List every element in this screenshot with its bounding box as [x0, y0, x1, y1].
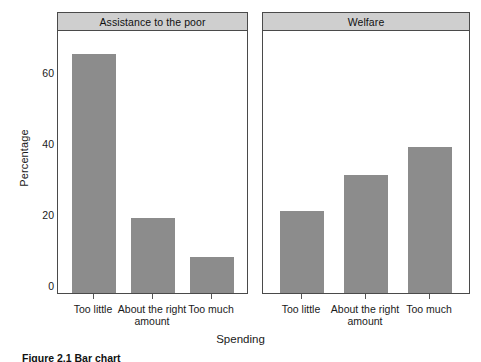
bar-chart-figure: Percentage 60 40 20 0 Assistance to the … [0, 0, 481, 362]
y-axis-title: Percentage [18, 98, 30, 218]
x-tick-mark-p0-0 [93, 294, 94, 299]
x-tick-mark-p1-2 [429, 294, 430, 299]
bar-welfare-right-amount [344, 175, 388, 293]
x-tick-label-p1-1: About the right amount [329, 303, 401, 327]
bar-welfare-too-much [408, 147, 452, 293]
bar-welfare-too-little [280, 211, 324, 293]
y-tick-label-40: 40 [28, 139, 54, 149]
x-tick-label-p1-0: Too little [265, 303, 337, 315]
y-tick-label-0: 0 [28, 281, 54, 291]
x-axis-title: Spending [0, 333, 481, 345]
figure-caption: Figure 2.1 Bar chart [22, 352, 121, 362]
panel-header-label: Welfare [263, 13, 469, 31]
bar-assistance-too-much [190, 257, 234, 293]
plot-area [58, 32, 247, 293]
panel-assistance-to-the-poor: Assistance to the poor [57, 12, 248, 294]
x-tick-mark-p1-1 [365, 294, 366, 299]
x-tick-label-p1-2: Too much [393, 303, 465, 315]
x-tick-mark-p1-0 [301, 294, 302, 299]
x-tick-label-p0-2: Too much [175, 303, 247, 315]
panel-header-label: Assistance to the poor [58, 13, 247, 31]
x-tick-mark-p0-2 [211, 294, 212, 299]
bar-assistance-too-little [72, 54, 116, 293]
plot-area [263, 32, 469, 293]
panel-welfare: Welfare [262, 12, 470, 294]
bar-assistance-right-amount [131, 218, 175, 293]
y-tick-label-20: 20 [28, 210, 54, 220]
y-tick-label-60: 60 [28, 68, 54, 78]
x-tick-mark-p0-1 [152, 294, 153, 299]
